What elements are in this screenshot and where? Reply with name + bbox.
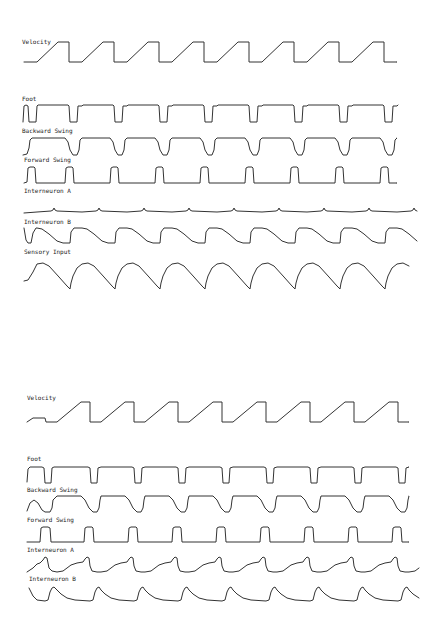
- label-interneuron-b-bottom: Interneuron B: [29, 575, 76, 582]
- trace-foot-bottom: [27, 467, 409, 483]
- panel-top: Velocity Foot Backward Swing Forward Swi…: [22, 38, 417, 289]
- trace-interneuron-b-top: [24, 228, 417, 243]
- label-foot-bottom: Foot: [27, 455, 42, 462]
- trace-velocity-bottom: [27, 402, 409, 422]
- trace-backward-swing-top: [23, 138, 397, 155]
- label-foot-top: Foot: [22, 95, 37, 102]
- trace-sensory-input-top: [24, 263, 409, 289]
- label-interneuron-b-top: Interneuron B: [24, 218, 71, 225]
- trace-interneuron-a-top: [24, 208, 417, 213]
- label-backward-swing-bottom: Backward Swing: [27, 486, 78, 494]
- trace-forward-swing-bottom: [27, 527, 409, 542]
- trace-figure: Velocity Foot Backward Swing Forward Swi…: [0, 0, 445, 635]
- label-velocity-bottom: Velocity: [27, 394, 56, 402]
- trace-interneuron-a-bottom: [27, 557, 419, 572]
- trace-velocity-top: [24, 42, 397, 62]
- panel-bottom: Velocity Foot Backward Swing Forward Swi…: [27, 394, 419, 601]
- trace-foot-top: [23, 105, 398, 122]
- label-interneuron-a-bottom: Interneuron A: [27, 546, 74, 553]
- trace-backward-swing-bottom: [27, 496, 409, 512]
- label-sensory-input-top: Sensory Input: [24, 248, 71, 256]
- label-backward-swing-top: Backward Swing: [22, 127, 73, 135]
- trace-interneuron-b-bottom: [29, 587, 419, 601]
- trace-forward-swing-top: [24, 167, 397, 183]
- label-forward-swing-top: Forward Swing: [24, 156, 71, 164]
- label-interneuron-a-top: Interneuron A: [24, 187, 71, 194]
- label-forward-swing-bottom: Forward Swing: [27, 516, 74, 524]
- label-velocity-top: Velocity: [22, 38, 51, 46]
